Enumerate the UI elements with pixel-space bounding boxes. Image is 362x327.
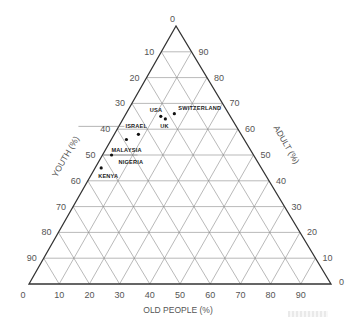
adult-tick: 40 xyxy=(276,176,286,186)
youth-tick: 70 xyxy=(56,202,66,212)
apex-tick: 0 xyxy=(170,14,175,24)
point-marker xyxy=(110,153,113,156)
youth-tick: 80 xyxy=(41,227,51,237)
point-marker xyxy=(125,138,128,141)
data-point-switzerland: SWITZERLAND xyxy=(173,105,222,116)
point-label: KENYA xyxy=(98,173,118,179)
ternary-chart: 1020304050607080909080706050403020100102… xyxy=(0,0,362,327)
point-marker xyxy=(173,112,176,115)
youth-tick: 50 xyxy=(85,150,95,160)
adult-tick: 60 xyxy=(245,124,255,134)
old-people-axis-label: OLD PEOPLE (%) xyxy=(143,305,213,315)
youth-tick: 10 xyxy=(144,47,154,57)
adult-tick: 20 xyxy=(307,227,317,237)
point-marker xyxy=(137,133,140,136)
grid-line-old xyxy=(120,103,223,284)
adult-tick: 70 xyxy=(230,98,240,108)
youth-tick: 40 xyxy=(100,124,110,134)
old-people-tick: 10 xyxy=(54,290,64,300)
data-point-usa: USA xyxy=(150,107,163,118)
point-marker xyxy=(164,117,167,120)
point-label: NIGERIA xyxy=(119,159,144,165)
old-people-tick: 40 xyxy=(145,290,155,300)
data-point-nigeria: NIGERIA xyxy=(104,153,144,165)
data-point-kenya: KENYA xyxy=(98,166,118,179)
adult-tick: 80 xyxy=(214,73,224,83)
old-people-tick: 80 xyxy=(266,290,276,300)
point-label: SWITZERLAND xyxy=(178,105,221,111)
old-people-tick: 20 xyxy=(84,290,94,300)
old-people-tick: 70 xyxy=(235,290,245,300)
point-label: ISRAEL xyxy=(125,123,147,129)
grid-line-old xyxy=(59,52,191,284)
point-marker xyxy=(159,115,162,118)
data-point-israel: ISRAEL xyxy=(78,123,147,136)
old-people-tick: 0 xyxy=(20,290,25,300)
youth-axis-label: YOUTH (%) xyxy=(50,134,81,178)
grid-line-adult xyxy=(44,258,60,284)
point-marker xyxy=(100,166,103,169)
grid-line-adult xyxy=(161,52,300,284)
youth-tick: 60 xyxy=(71,176,81,186)
grid-line-old xyxy=(301,258,316,284)
old-people-tick: 90 xyxy=(296,290,306,300)
point-label: USA xyxy=(150,107,162,113)
right-corner-tick: 0 xyxy=(339,277,344,287)
old-people-tick: 60 xyxy=(205,290,215,300)
old-people-tick: 50 xyxy=(175,290,185,300)
tick-labels: 1020304050607080909080706050403020100102… xyxy=(20,47,332,300)
youth-tick: 30 xyxy=(115,98,125,108)
youth-tick: 20 xyxy=(130,73,140,83)
adult-tick: 50 xyxy=(261,150,271,160)
point-label: MALAYSIA xyxy=(111,147,141,153)
adult-axis-label: ADULT (%) xyxy=(272,124,302,166)
adult-tick: 10 xyxy=(323,253,333,263)
grid-lines xyxy=(44,52,316,284)
point-label: UK xyxy=(160,123,168,129)
grid-line-adult xyxy=(132,103,241,284)
data-point-uk: UK xyxy=(160,117,168,129)
youth-tick: 90 xyxy=(27,253,37,263)
adult-tick: 30 xyxy=(292,202,302,212)
scan-artifact xyxy=(288,311,328,317)
adult-tick: 90 xyxy=(199,47,209,57)
grid-line-old xyxy=(180,155,254,284)
old-people-tick: 30 xyxy=(115,290,125,300)
